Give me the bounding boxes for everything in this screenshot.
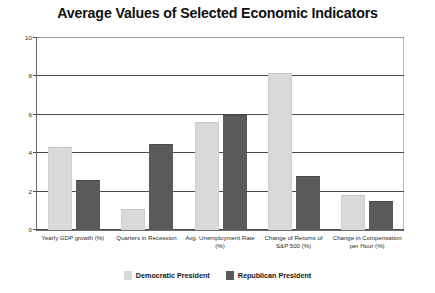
light-gray-swatch [124,271,132,280]
chart-legend: Democratic PresidentRepublican President [0,271,435,280]
category-label: Change of Returns of S&P 500 (%) [257,234,331,250]
legend-item[interactable]: Republican President [226,271,312,280]
plot-area: 0246810 [36,38,404,231]
bar-group [184,38,257,230]
bar[interactable] [48,147,72,230]
legend-item[interactable]: Democratic President [124,271,210,280]
category-label: Quarters in Recession [110,234,184,250]
y-tick-label: 4 [29,149,32,156]
chart-title: Average Values of Selected Economic Indi… [0,5,435,21]
bar-group [37,38,110,230]
economic-indicators-bar-chart: Average Values of Selected Economic Indi… [0,0,435,293]
bar-group [110,38,183,230]
y-tick-label: 6 [29,110,32,117]
plot-wrapper: 0246810 [36,38,404,231]
bar[interactable] [195,122,219,230]
bar-groups [37,38,404,230]
category-axis-labels: Yearly GDP growth (%)Quarters in Recessi… [36,234,404,250]
bar[interactable] [268,73,292,230]
category-label: Yearly GDP growth (%) [36,234,110,250]
bar[interactable] [76,180,100,230]
bar[interactable] [149,144,173,230]
bar-group [331,38,404,230]
bar[interactable] [296,176,320,230]
legend-label: Democratic President [136,271,210,280]
bar-group [257,38,330,230]
dark-gray-swatch [226,271,234,280]
y-tick-label: 0 [29,226,32,233]
y-tick-label: 2 [29,187,32,194]
bar[interactable] [223,115,247,230]
bar[interactable] [121,209,145,230]
y-tick-label: 10 [25,34,32,41]
category-label: Change in Compensation per Hour (%) [330,234,404,250]
bar[interactable] [341,195,365,230]
category-label: Avg. Unemployment Rate (%) [183,234,257,250]
y-tick-label: 8 [29,72,32,79]
bar[interactable] [369,201,393,230]
legend-label: Republican President [238,271,312,280]
